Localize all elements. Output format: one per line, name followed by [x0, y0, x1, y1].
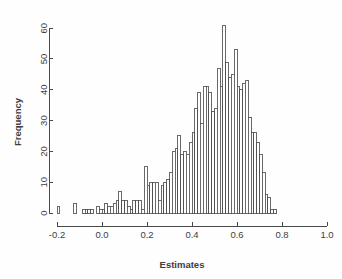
histogram-bar — [217, 68, 220, 213]
histogram-chart: -0.20.00.20.40.60.81.0 0102030405060 Est… — [0, 0, 342, 279]
x-axis-tick-label: 0.8 — [275, 229, 288, 240]
histogram-bar — [206, 87, 209, 213]
histogram-bar — [251, 133, 254, 213]
x-axis-tick-label: -0.2 — [49, 229, 65, 240]
y-axis-tick-label: 10 — [38, 177, 49, 188]
histogram-bar — [105, 204, 108, 213]
histogram-bar — [262, 173, 265, 213]
histogram-bar — [82, 210, 85, 213]
histogram-bar — [57, 207, 60, 213]
y-axis-tick-label: 50 — [38, 54, 49, 65]
y-axis-title: Frequency — [12, 97, 23, 146]
chart-canvas: -0.20.00.20.40.60.81.0 0102030405060 Est… — [0, 0, 342, 279]
y-axis-tick-label: 30 — [38, 115, 49, 126]
histogram-bar — [161, 185, 164, 213]
histogram-bar — [74, 204, 77, 213]
y-axis-tick-label: 60 — [38, 23, 49, 34]
histogram-bar — [240, 90, 243, 213]
histogram-bar — [195, 108, 198, 213]
histogram-bar — [139, 201, 142, 213]
histogram-bar — [231, 74, 234, 213]
x-axis-tick-label: 0.2 — [140, 229, 153, 240]
x-axis-tick-label: 0.4 — [185, 229, 198, 240]
y-axis-tick-label: 20 — [38, 146, 49, 157]
y-axis-tick-label: 40 — [38, 84, 49, 95]
histogram-bar — [116, 201, 119, 213]
histogram-bar — [127, 207, 130, 213]
x-axis: -0.20.00.20.40.60.81.0 — [49, 222, 334, 240]
y-axis: 0102030405060 — [38, 23, 53, 216]
x-axis-tick-label: 0.6 — [230, 229, 243, 240]
x-axis-tick-label: 0.0 — [95, 229, 108, 240]
histogram-bar — [184, 151, 187, 213]
histogram-bar — [150, 182, 153, 213]
histogram-bar — [172, 151, 175, 213]
x-axis-title: Estimates — [160, 259, 205, 270]
x-axis-tick-label: 1.0 — [320, 229, 333, 240]
histogram-bar — [91, 210, 94, 213]
histogram-bar — [274, 210, 277, 213]
histogram-bars — [57, 25, 276, 213]
y-axis-tick-label: 0 — [38, 210, 49, 215]
